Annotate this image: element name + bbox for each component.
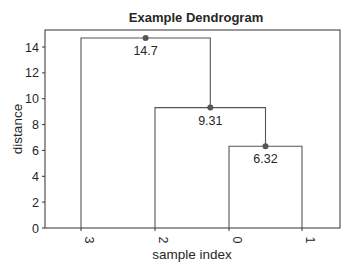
link-distance-label: 6.32 [253,152,277,166]
link-3-201 [81,38,210,228]
dendrogram-links [81,38,302,228]
y-axis: 0 2 4 6 8 10 12 14 [25,41,45,236]
node-marker [143,35,149,41]
y-tick-label: 8 [32,118,39,132]
y-tick-label: 6 [32,144,39,158]
leaf-label: 2 [156,237,170,244]
y-tick-label: 10 [25,92,39,106]
x-axis: 3 2 0 1 [81,228,317,244]
y-axis-label: distance [10,104,25,154]
y-tick-label: 4 [32,170,39,184]
leaf-label: 1 [303,237,317,244]
y-tick-label: 2 [32,196,39,210]
x-axis-label: sample index [152,247,232,262]
link-distance-label: 9.31 [198,114,222,128]
leaf-label: 0 [230,237,244,244]
dendrogram-chart: Example Dendrogram 0 2 4 6 8 10 12 14 di… [0,0,353,269]
link-distance-label: 14.7 [133,44,157,58]
chart-title: Example Dendrogram [129,10,263,25]
leaf-label: 3 [82,237,96,244]
y-tick-label: 0 [32,222,39,236]
plot-area-frame [45,30,340,228]
node-marker [263,143,269,149]
y-tick-label: 14 [25,41,39,55]
node-marker [207,105,213,111]
y-tick-label: 12 [25,66,39,80]
